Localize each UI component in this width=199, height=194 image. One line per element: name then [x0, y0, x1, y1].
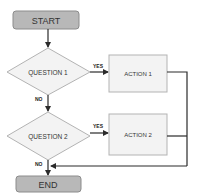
action-1-label: ACTION 1 [124, 71, 152, 77]
no-label-2: NO [35, 161, 43, 167]
question-2-label: QUESTION 2 [28, 133, 68, 141]
question-1-decision: QUESTION 1 [7, 48, 90, 95]
action-2-process: ACTION 2 [109, 114, 167, 155]
yes-label-1: YES [93, 63, 104, 69]
question-1-label: QUESTION 1 [28, 69, 68, 77]
action-2-label: ACTION 2 [124, 132, 152, 138]
flowchart-canvas: START QUESTION 1 YES ACTION 1 NO QUESTIO… [0, 0, 199, 194]
connector-action1-rail [167, 72, 187, 166]
end-terminal: END [16, 176, 81, 192]
end-label: END [38, 180, 58, 190]
yes-label-2: YES [93, 123, 104, 129]
question-2-decision: QUESTION 2 [7, 112, 90, 160]
no-label-1: NO [35, 96, 43, 102]
action-1-process: ACTION 1 [109, 55, 167, 92]
start-label: START [32, 16, 61, 26]
start-terminal: START [13, 11, 79, 29]
